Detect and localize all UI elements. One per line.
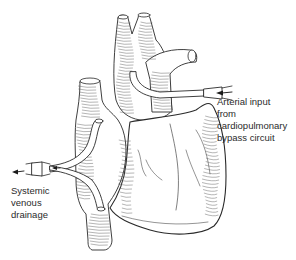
venous-label-line: venous: [11, 197, 50, 209]
arterial-label-line: cardiopulmonary: [217, 120, 287, 132]
venous-label-line: drainage: [11, 209, 50, 221]
great-vessels: [114, 13, 197, 121]
heart-ventricles: [110, 104, 226, 235]
arterial-label-line: bypass circuit: [217, 132, 287, 144]
venous-label-line: Systemic: [11, 185, 50, 197]
venous-drainage-label: Systemic venous drainage: [11, 185, 50, 221]
arterial-label-line: from: [217, 108, 287, 120]
arterial-input-label: Arterial input from cardiopulmonary bypa…: [217, 96, 287, 144]
arterial-label-line: Arterial input: [217, 96, 287, 108]
